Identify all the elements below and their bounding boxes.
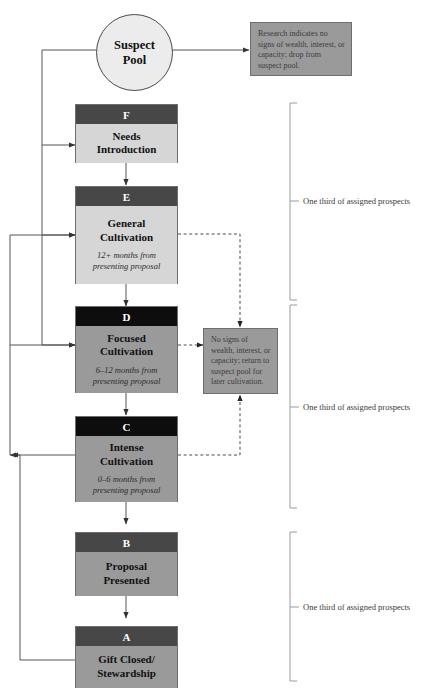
edge-e-to-return-note — [178, 234, 240, 327]
bracket-2 — [290, 305, 297, 508]
stage-node-e: E General Cultivation 12+ months from pr… — [75, 186, 178, 284]
stage-f-title-line2: Introduction — [97, 143, 157, 157]
stage-e-sub-line1: 12+ months from — [97, 250, 156, 261]
stage-f-body: Needs Introduction — [76, 124, 177, 163]
stage-e-body: General Cultivation 12+ months from pres… — [76, 206, 177, 284]
bracket-1 — [290, 103, 297, 300]
stage-e-letter: E — [76, 187, 177, 206]
stage-node-a: A Gift Closed/ Stewardship — [75, 626, 178, 688]
stage-node-c: C Intense Cultivation 0–6 months from pr… — [75, 416, 178, 502]
stage-a-body: Gift Closed/ Stewardship — [76, 646, 177, 688]
stage-e-title-line2: Cultivation — [100, 231, 153, 245]
stage-f-title-line1: Needs — [112, 130, 140, 144]
stage-c-sub-line1: 0–6 months from — [98, 474, 155, 485]
stage-c-letter: C — [76, 417, 177, 436]
stage-d-sub-line1: 6–12 months from — [96, 365, 158, 376]
bracket-label-1: One third of assigned prospects — [303, 196, 410, 206]
stage-a-title-line2: Stewardship — [97, 667, 156, 681]
bracket-3 — [290, 532, 297, 681]
stage-c-body: Intense Cultivation 0–6 months from pres… — [76, 436, 177, 502]
diagram-canvas: Suspect Pool Research indicates no signs… — [0, 0, 440, 691]
stage-b-body: Proposal Presented — [76, 552, 177, 596]
stage-b-title-line2: Presented — [103, 574, 149, 588]
stage-e-title-line1: General — [108, 217, 146, 231]
stage-a-title-line1: Gift Closed/ — [98, 653, 155, 667]
stage-c-title-line2: Cultivation — [100, 455, 153, 469]
cut-off-title — [0, 0, 440, 9]
edge-c-to-return-note — [178, 395, 240, 455]
bracket-label-2: One third of assigned prospects — [303, 402, 410, 412]
note-drop-from-suspect-pool: Research indicates no signs of wealth, i… — [250, 22, 352, 76]
edge-a-to-return-rail — [20, 455, 75, 660]
stage-d-title-line2: Cultivation — [100, 345, 153, 359]
stage-d-letter: D — [76, 307, 177, 326]
stage-e-sub-line2: presenting proposal — [93, 261, 161, 272]
note-return-to-suspect-pool: No signs of wealth, interest, or capacit… — [203, 328, 278, 394]
suspect-pool-node: Suspect Pool — [96, 14, 173, 91]
stage-node-f: F Needs Introduction — [75, 104, 178, 163]
stage-c-title-line1: Intense — [109, 441, 143, 455]
stage-c-sub-line2: presenting proposal — [93, 485, 161, 496]
stage-node-d: D Focused Cultivation 6–12 months from p… — [75, 306, 178, 393]
suspect-pool-label-line1: Suspect — [114, 38, 155, 53]
stage-d-title-line1: Focused — [107, 332, 146, 346]
stage-b-letter: B — [76, 533, 177, 552]
note-drop-text: Research indicates no signs of wealth, i… — [258, 29, 345, 70]
stage-a-letter: A — [76, 627, 177, 646]
bracket-label-3: One third of assigned prospects — [303, 602, 410, 612]
stage-d-sub-line2: presenting proposal — [93, 376, 161, 387]
note-return-text: No signs of wealth, interest, or capacit… — [211, 335, 271, 386]
stage-f-letter: F — [76, 105, 177, 124]
stage-b-title-line1: Proposal — [106, 560, 147, 574]
stage-d-body: Focused Cultivation 6–12 months from pre… — [76, 326, 177, 393]
stage-node-b: B Proposal Presented — [75, 532, 178, 596]
suspect-pool-label-line2: Pool — [114, 53, 155, 68]
